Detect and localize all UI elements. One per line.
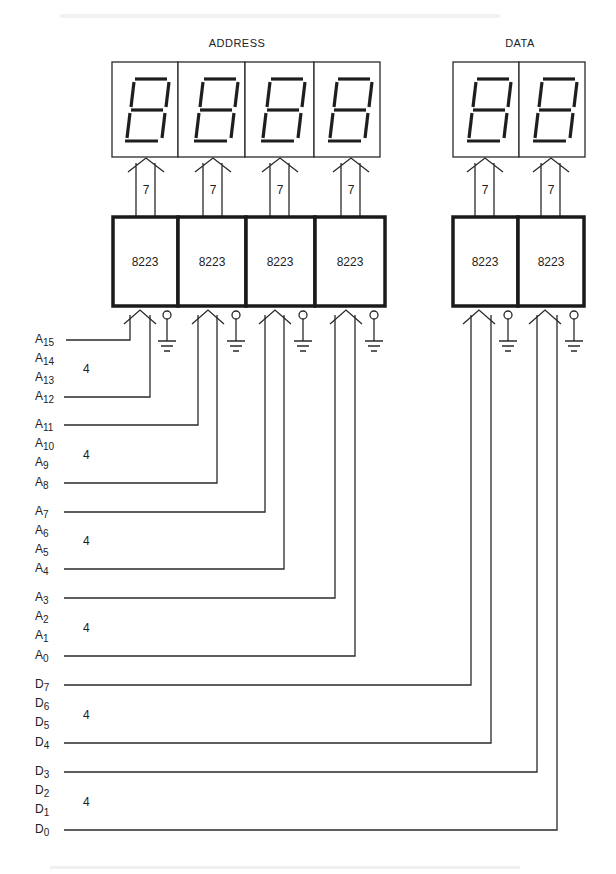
signal-label: A7	[35, 504, 49, 520]
chip-label: 8223	[472, 255, 499, 269]
schematic-diagram: ADDRESS DATA	[0, 0, 616, 874]
group-bus-width: 4	[83, 708, 90, 722]
input-arrow-icon	[192, 310, 224, 324]
signal-label: A4	[35, 561, 49, 577]
signal-label: D6	[35, 696, 50, 712]
signal-label: A6	[35, 523, 49, 539]
address-group-label: ADDRESS	[209, 37, 266, 49]
group-bus-width: 4	[83, 534, 90, 548]
wire-d3	[64, 315, 537, 772]
chip-label: 8223	[132, 255, 159, 269]
signal-label: A5	[35, 542, 49, 558]
wire-d0	[64, 315, 557, 830]
signal-labels: A15 A14 A13 A12 4 A11 A10 A9 A8 4 A7 A6 …	[35, 332, 90, 838]
signal-label: D7	[35, 677, 50, 693]
chip-label: 8223	[538, 255, 565, 269]
signal-label: D5	[35, 715, 50, 731]
ground-icon	[499, 311, 517, 351]
bus-width-label: 7	[548, 183, 555, 197]
signal-label: A8	[35, 475, 49, 491]
ground-icon	[294, 311, 312, 351]
ground-icon	[365, 311, 383, 351]
wire-d7	[64, 315, 471, 685]
signal-label: D2	[35, 783, 50, 799]
ground-icon	[565, 311, 583, 351]
input-arrow-icon	[463, 310, 495, 324]
chip-label: 8223	[199, 255, 226, 269]
bus-width-label: 7	[277, 183, 284, 197]
signal-label: A12	[35, 389, 55, 405]
bus-width-label: 7	[482, 183, 489, 197]
bus-width-label: 7	[348, 183, 355, 197]
ground-symbols	[158, 311, 583, 351]
signal-wires	[64, 315, 557, 830]
group-bus-width: 4	[83, 621, 90, 635]
wire-a15	[66, 315, 130, 340]
input-arrow-icon	[124, 310, 156, 324]
signal-label: A9	[35, 455, 49, 471]
signal-label: A10	[35, 436, 55, 452]
signal-label: A14	[35, 351, 55, 367]
signal-label: D1	[35, 802, 50, 818]
signal-label: D4	[35, 735, 50, 751]
group-bus-width: 4	[83, 362, 90, 376]
signal-label: A3	[35, 590, 49, 606]
signal-label: A13	[35, 370, 55, 386]
wire-d4	[64, 315, 491, 743]
bus-width-label: 7	[143, 183, 150, 197]
chip-label: 8223	[267, 255, 294, 269]
data-group-label: DATA	[505, 37, 535, 49]
signal-label: D3	[35, 764, 50, 780]
group-bus-width: 4	[83, 795, 90, 809]
scan-artifact	[50, 866, 520, 869]
wire-a12	[64, 315, 150, 397]
wire-a4	[64, 315, 284, 569]
chip-label: 8223	[337, 255, 364, 269]
scan-artifact	[60, 14, 500, 18]
signal-label: A15	[35, 332, 55, 348]
input-arrows	[124, 310, 561, 324]
signal-label: D0	[35, 822, 50, 838]
wire-a0	[64, 315, 355, 656]
wire-a3	[64, 315, 335, 598]
signal-label: A1	[35, 628, 49, 644]
signal-label: A0	[35, 648, 49, 664]
group-bus-width: 4	[83, 448, 90, 462]
signal-label: A2	[35, 609, 49, 625]
input-arrow-icon	[259, 310, 291, 324]
ground-icon	[158, 311, 176, 351]
bus-width-label: 7	[210, 183, 217, 197]
signal-label: A11	[35, 417, 54, 433]
ground-icon	[227, 311, 245, 351]
input-arrow-icon	[529, 310, 561, 324]
